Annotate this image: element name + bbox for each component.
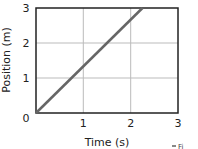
y-axis-label: Position (m) — [0, 27, 13, 93]
x-axis-label: Time (s) — [84, 136, 130, 149]
figure-label-marker — [172, 145, 176, 147]
x-tick-3: 3 — [175, 117, 182, 130]
grid — [36, 8, 178, 113]
y-tick-0: 0 — [23, 112, 30, 125]
x-tick-2: 2 — [127, 117, 134, 130]
y-tick-1: 1 — [23, 72, 30, 85]
figure-label-fragment: Fi — [178, 143, 184, 149]
y-tick-2: 2 — [23, 37, 30, 50]
x-tick-1: 1 — [80, 117, 87, 130]
position-line — [36, 8, 143, 113]
plot-frame — [36, 8, 178, 113]
y-tick-3: 3 — [23, 2, 30, 15]
position-time-chart: 3 2 1 0 1 2 3 Time (s) Position (m) Fi — [0, 0, 198, 149]
